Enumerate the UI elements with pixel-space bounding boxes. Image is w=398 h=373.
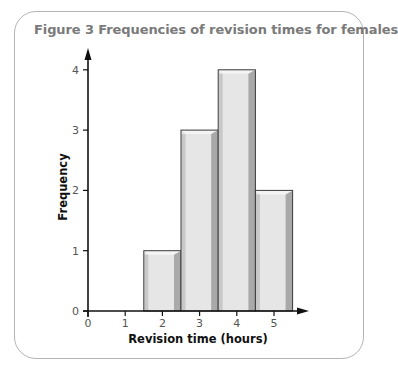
x-tick-label: 2 [159,317,166,330]
y-axis-title: Frequency [56,153,70,221]
y-tick-label: 0 [72,305,79,318]
y-tick-label: 1 [72,245,79,258]
y-tick-label: 2 [72,184,79,197]
x-axis-arrow-icon [297,308,309,315]
histogram-bar [218,70,255,311]
histogram-bar [181,130,218,311]
histogram-bar [255,190,292,311]
y-axis-arrow-icon [85,48,92,60]
y-tick-label: 3 [72,124,79,137]
x-tick-label: 4 [233,317,240,330]
x-tick-label: 0 [85,317,92,330]
y-tick-label: 4 [72,64,79,77]
x-tick-label: 5 [271,317,278,330]
x-axis-title: Revision time (hours) [128,332,268,346]
x-tick-label: 1 [122,317,129,330]
histogram-bar [144,251,181,311]
x-tick-label: 3 [196,317,203,330]
